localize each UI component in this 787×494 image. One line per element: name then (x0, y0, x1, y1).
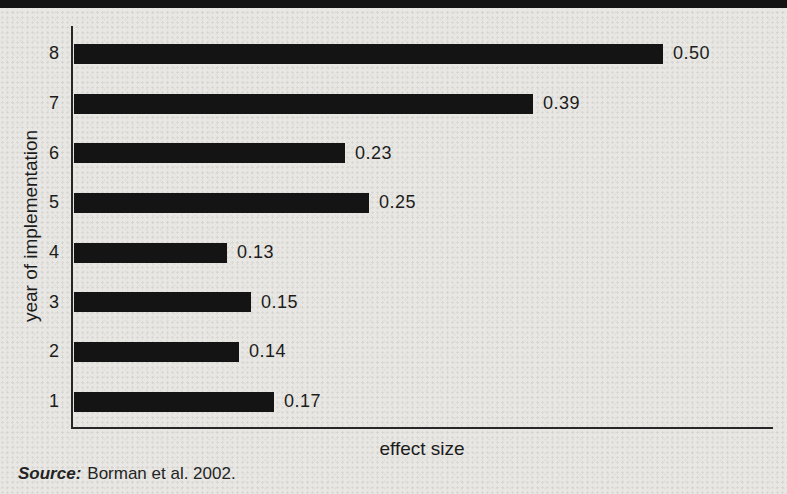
bar-value-label: 0.25 (379, 192, 416, 213)
x-axis-line (71, 427, 773, 429)
y-tick-label: 1 (0, 391, 72, 412)
bar (74, 193, 369, 213)
bar-row: 40.13 (0, 228, 787, 278)
bar-row: 20.14 (0, 327, 787, 377)
y-tick-label: 6 (0, 143, 72, 164)
bar-row: 70.39 (0, 79, 787, 129)
bar-value-label: 0.17 (284, 391, 321, 412)
bar (74, 292, 251, 312)
bar-value-label: 0.39 (543, 93, 580, 114)
y-tick-label: 4 (0, 242, 72, 263)
bar-row: 80.50 (0, 29, 787, 79)
bar-value-label: 0.15 (261, 292, 298, 313)
y-tick-label: 3 (0, 292, 72, 313)
bar (74, 243, 227, 263)
source-note: Source:Borman et al. 2002. (18, 464, 236, 484)
bar-row: 60.23 (0, 128, 787, 178)
bar (74, 143, 345, 163)
bar (74, 94, 533, 114)
bar-value-label: 0.23 (355, 143, 392, 164)
bar (74, 44, 663, 64)
bar (74, 392, 274, 412)
y-tick-label: 7 (0, 93, 72, 114)
y-tick-label: 5 (0, 192, 72, 213)
bar-value-label: 0.13 (237, 242, 274, 263)
y-tick-label: 2 (0, 341, 72, 362)
bar-row: 50.25 (0, 178, 787, 228)
bar-rows: 80.5070.3960.2350.2540.1330.1520.1410.17 (0, 29, 787, 427)
bar-value-label: 0.14 (249, 341, 286, 362)
bar-chart: year of implementation 80.5070.3960.2350… (0, 0, 787, 494)
bar-value-label: 0.50 (673, 43, 710, 64)
source-text: Borman et al. 2002. (87, 464, 235, 483)
bar-row: 30.15 (0, 277, 787, 327)
x-axis-label: effect size (72, 438, 772, 460)
source-prefix: Source: (18, 464, 81, 483)
bar (74, 342, 239, 362)
scanned-figure-page: year of implementation 80.5070.3960.2350… (0, 0, 787, 494)
y-tick-label: 8 (0, 43, 72, 64)
bar-row: 10.17 (0, 377, 787, 427)
